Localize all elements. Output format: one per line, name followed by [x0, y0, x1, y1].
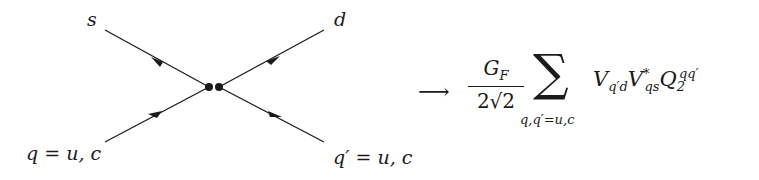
fraction-numerator: GF [468, 56, 524, 83]
fraction-bar [468, 86, 524, 87]
arrow-qprime-icon [268, 111, 282, 117]
coupling-fraction: GF 2√2 [468, 56, 524, 113]
label-q: q = u, c [26, 144, 101, 163]
label-qprime: q′ = u, c [333, 148, 412, 167]
line-s [105, 30, 209, 87]
line-d [219, 30, 324, 87]
vertex-dot-right [215, 83, 223, 91]
ckm-operator-terms: Vq′dV*qsQ2qq′ [593, 66, 699, 94]
sum-subscript: q,q′=u,c [520, 112, 574, 127]
sum-symbol-icon: ∑ [533, 48, 569, 98]
long-arrow-icon: ⟶ [418, 79, 450, 104]
fraction-denominator: 2√2 [468, 89, 524, 113]
label-s: s [87, 10, 97, 29]
label-d: d [334, 10, 346, 29]
effective-hamiltonian-formula: ⟶ GF 2√2 ∑ q,q′=u,c Vq′dV*qsQ2qq′ [380, 40, 759, 150]
vertex-dot-left [205, 83, 213, 91]
arrow-q-icon [148, 111, 162, 118]
